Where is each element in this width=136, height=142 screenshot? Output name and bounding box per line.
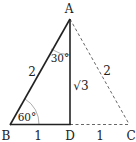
segment-ac (70, 19, 129, 124)
length-label-ac: 2 (103, 64, 111, 78)
length-label-bd: 1 (34, 129, 42, 142)
length-label-ad: √3 (73, 79, 88, 93)
angle-label-a: 30° (51, 52, 70, 64)
angle-label-b: 60° (18, 111, 37, 123)
vertex-label-a: A (64, 2, 74, 16)
length-label-ab: 2 (28, 65, 36, 79)
segment-ab (10, 19, 70, 125)
length-label-dc: 1 (96, 129, 104, 142)
vertex-label-d: D (65, 129, 75, 142)
vertex-label-c: C (126, 129, 135, 142)
vertex-label-b: B (2, 129, 11, 142)
triangle-diagram: A B D C 2 2 √3 1 1 60° 30° (0, 0, 136, 142)
